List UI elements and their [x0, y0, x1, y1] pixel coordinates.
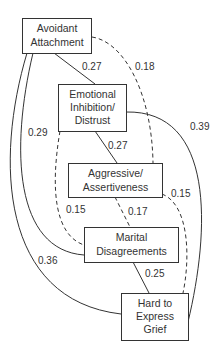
coef-emotional-marital: 0.15	[66, 204, 86, 215]
coef-avoidant-marital: 0.29	[28, 127, 48, 138]
node-label: Distrust	[75, 114, 111, 126]
edge-avoidant-marital	[21, 53, 84, 255]
coef-emotional-grief: 0.39	[190, 121, 210, 132]
node-label: Grief	[144, 323, 167, 335]
node-emotional-inhibition: Emotional Inhibition/ Distrust	[59, 85, 127, 132]
path-diagram: Avoidant Attachment Emotional Inhibition…	[0, 0, 219, 358]
coef-aggressive-grief: 0.15	[171, 188, 191, 199]
node-label: Disagreements	[96, 245, 167, 257]
node-aggressive-assertiveness: Aggressive/ Assertiveness	[69, 164, 163, 198]
node-label: Avoidant	[37, 22, 78, 34]
coef-avoidant-grief: 0.36	[38, 255, 58, 266]
node-label: Hard to	[138, 297, 173, 309]
node-label: Emotional	[69, 88, 116, 100]
node-label: Assertiveness	[83, 181, 148, 193]
node-hard-to-express-grief: Hard to Express Grief	[122, 294, 189, 341]
node-avoidant-attachment: Avoidant Attachment	[23, 19, 92, 54]
node-label: Marital	[116, 231, 148, 243]
coef-marital-grief: 0.25	[145, 268, 165, 279]
coef-avoidant-aggressive: 0.18	[135, 61, 155, 72]
node-label: Aggressive/	[88, 167, 143, 179]
coef-avoidant-emotional: 0.27	[82, 61, 102, 72]
node-label: Attachment	[30, 36, 83, 48]
coef-aggressive-marital: 0.17	[128, 206, 148, 217]
coef-emotional-aggressive: 0.27	[108, 140, 128, 151]
node-label: Inhibition/	[70, 101, 115, 113]
node-label: Express	[136, 310, 174, 322]
node-marital-disagreements: Marital Disagreements	[85, 228, 179, 263]
